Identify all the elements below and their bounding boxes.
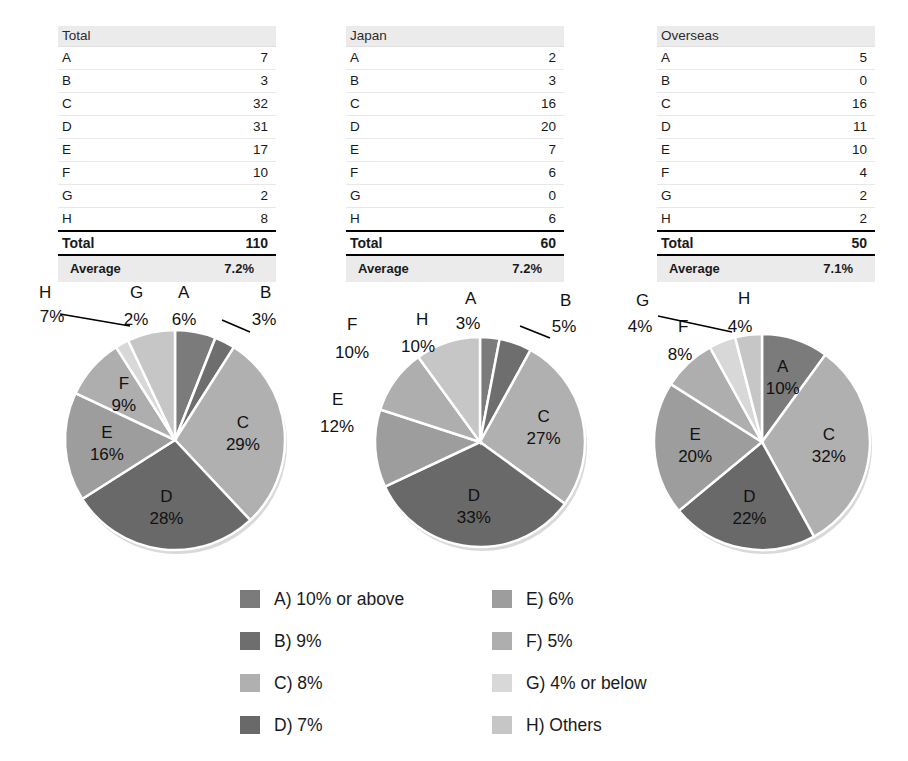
svg-text:C: C bbox=[823, 425, 835, 444]
row-value: 2 bbox=[465, 47, 564, 70]
row-value: 10 bbox=[177, 162, 276, 185]
legend-swatch-d-icon bbox=[240, 716, 260, 734]
table-row: A7 bbox=[58, 47, 276, 70]
table-header-value bbox=[177, 26, 276, 47]
table-row: E7 bbox=[346, 139, 564, 162]
svg-text:7%: 7% bbox=[40, 307, 65, 326]
table-row: E17 bbox=[58, 139, 276, 162]
table-row: B3 bbox=[346, 70, 564, 93]
svg-text:6%: 6% bbox=[172, 310, 197, 329]
svg-text:12%: 12% bbox=[320, 417, 354, 436]
svg-text:D: D bbox=[160, 487, 172, 506]
svg-text:10%: 10% bbox=[335, 343, 369, 362]
row-value: 10 bbox=[776, 139, 875, 162]
legend-item-e: E) 6% bbox=[492, 578, 647, 620]
row-label: B bbox=[58, 70, 177, 93]
legend-swatch-f-icon bbox=[492, 632, 512, 650]
row-value: 4 bbox=[776, 162, 875, 185]
row-value: 8 bbox=[177, 208, 276, 232]
table-row: A5 bbox=[657, 47, 875, 70]
row-label: E bbox=[58, 139, 177, 162]
legend-label-b: B) 9% bbox=[274, 631, 322, 652]
row-label: D bbox=[657, 116, 776, 139]
legend-item-g: G) 4% or below bbox=[492, 662, 647, 704]
row-label: C bbox=[657, 93, 776, 116]
svg-text:33%: 33% bbox=[457, 508, 491, 527]
japan-pie-svg: A3%B5%C27%D33%E12%F10%H10% bbox=[320, 282, 620, 572]
total-value: 50 bbox=[776, 231, 875, 255]
legend-item-f: F) 5% bbox=[492, 620, 647, 662]
legend-item-c: C) 8% bbox=[240, 662, 404, 704]
svg-text:C: C bbox=[537, 407, 549, 426]
row-label: F bbox=[346, 162, 465, 185]
table-row: D20 bbox=[346, 116, 564, 139]
legend-column-left: A) 10% or above B) 9% C) 8% D) 7% bbox=[240, 578, 404, 746]
svg-text:22%: 22% bbox=[732, 509, 766, 528]
legend-item-d: D) 7% bbox=[240, 704, 404, 746]
legend-item-b: B) 9% bbox=[240, 620, 404, 662]
row-label: D bbox=[58, 116, 177, 139]
row-label: B bbox=[346, 70, 465, 93]
svg-text:3%: 3% bbox=[456, 314, 481, 333]
svg-text:F: F bbox=[119, 374, 129, 393]
table-body: A2 B3 C16 D20 E7 F6 G0 H6 Total60 Averag… bbox=[346, 47, 564, 283]
total-label: Total bbox=[657, 231, 776, 255]
total-label: Total bbox=[346, 231, 465, 255]
svg-text:5%: 5% bbox=[552, 317, 577, 336]
overseas-table: Overseas A5 B0 C16 D11 E10 F4 G2 H2 Tota… bbox=[657, 26, 875, 282]
average-label: Average bbox=[346, 255, 465, 282]
table-header-row: Overseas bbox=[657, 26, 875, 47]
row-value: 7 bbox=[465, 139, 564, 162]
table-body: A7 B3 C32 D31 E17 F10 G2 H8 Total110 Ave… bbox=[58, 47, 276, 283]
svg-text:4%: 4% bbox=[728, 317, 753, 336]
table-row: B3 bbox=[58, 70, 276, 93]
svg-text:28%: 28% bbox=[149, 509, 183, 528]
row-label: G bbox=[657, 185, 776, 208]
row-label: G bbox=[346, 185, 465, 208]
chart-legend: A) 10% or above B) 9% C) 8% D) 7% E) 6% … bbox=[240, 578, 670, 753]
total-table: Total A7 B3 C32 D31 E17 F10 G2 H8 Total1… bbox=[58, 26, 276, 282]
table-row: G2 bbox=[657, 185, 875, 208]
legend-swatch-h-icon bbox=[492, 716, 512, 734]
legend-label-d: D) 7% bbox=[274, 715, 323, 736]
row-label: B bbox=[657, 70, 776, 93]
row-label: E bbox=[657, 139, 776, 162]
table-row: A2 bbox=[346, 47, 564, 70]
row-label: C bbox=[58, 93, 177, 116]
average-value: 7.1% bbox=[776, 255, 875, 282]
table-average-row: Average7.2% bbox=[346, 255, 564, 282]
row-value: 17 bbox=[177, 139, 276, 162]
row-value: 31 bbox=[177, 116, 276, 139]
svg-text:32%: 32% bbox=[812, 447, 846, 466]
table-row: B0 bbox=[657, 70, 875, 93]
row-label: A bbox=[346, 47, 465, 70]
row-label: H bbox=[657, 208, 776, 232]
svg-text:A: A bbox=[178, 283, 190, 302]
svg-text:E: E bbox=[332, 390, 343, 409]
row-value: 2 bbox=[177, 185, 276, 208]
table-row: F10 bbox=[58, 162, 276, 185]
svg-text:B: B bbox=[560, 291, 571, 310]
row-value: 0 bbox=[776, 70, 875, 93]
row-label: G bbox=[58, 185, 177, 208]
table-body: A5 B0 C16 D11 E10 F4 G2 H2 Total50 Avera… bbox=[657, 47, 875, 283]
svg-text:H: H bbox=[738, 289, 750, 308]
row-value: 6 bbox=[465, 162, 564, 185]
legend-swatch-b-icon bbox=[240, 632, 260, 650]
row-label: F bbox=[58, 162, 177, 185]
legend-swatch-a-icon bbox=[240, 590, 260, 608]
svg-text:16%: 16% bbox=[90, 445, 124, 464]
svg-text:9%: 9% bbox=[112, 396, 137, 415]
row-value: 3 bbox=[177, 70, 276, 93]
table-average-row: Average7.2% bbox=[58, 255, 276, 282]
table-header: Japan bbox=[346, 26, 564, 47]
legend-label-e: E) 6% bbox=[526, 589, 574, 610]
svg-text:10%: 10% bbox=[766, 379, 800, 398]
row-value: 2 bbox=[776, 185, 875, 208]
svg-text:G: G bbox=[130, 283, 143, 302]
row-value: 2 bbox=[776, 208, 875, 232]
table-header-value bbox=[776, 26, 875, 47]
row-value: 16 bbox=[465, 93, 564, 116]
overseas-pie-svg: A10%C32%D22%E20%F8%G4%H4% bbox=[620, 282, 908, 572]
legend-swatch-g-icon bbox=[492, 674, 512, 692]
